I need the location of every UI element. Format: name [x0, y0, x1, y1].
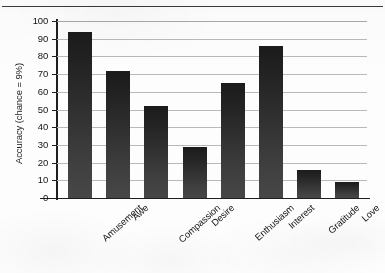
y-axis-tick-label: 80 [14, 50, 48, 61]
bar [106, 71, 130, 198]
gridline [57, 56, 367, 57]
x-axis-tick-label-text: Love [360, 202, 382, 224]
bar [144, 106, 168, 198]
y-axis-tick-label: 70 [14, 68, 48, 79]
y-axis-tick-label: 0 [14, 192, 48, 203]
gridline [57, 110, 367, 111]
bar [183, 147, 207, 198]
gridline [57, 92, 367, 93]
bar [259, 46, 283, 198]
x-axis-tick-label: Love [360, 202, 382, 224]
y-axis-tick-label: 100 [14, 15, 48, 26]
gridline [57, 127, 367, 128]
plot-area [57, 21, 367, 198]
gridline [57, 74, 367, 75]
gridline [57, 39, 367, 40]
y-axis-tick-label: 60 [14, 86, 48, 97]
bar [221, 83, 245, 198]
y-axis-tick [52, 198, 57, 199]
y-axis-tick-label: 30 [14, 139, 48, 150]
x-axis-tick-label: Gratitude [326, 202, 362, 236]
y-axis-tick-label: 10 [14, 174, 48, 185]
y-axis-tick-label: 40 [14, 121, 48, 132]
y-axis-tick-label: 20 [14, 157, 48, 168]
top-horizontal-rule [2, 6, 383, 7]
y-axis-tick-label: 50 [14, 104, 48, 115]
gridline [57, 163, 367, 164]
x-axis-tick-label-text: Gratitude [326, 202, 362, 236]
bar [335, 182, 359, 198]
y-axis-tick-label: 90 [14, 33, 48, 44]
bar [297, 170, 321, 198]
bar [68, 32, 92, 198]
chart-figure: Accuracy (chance = 9%) 01020304050607080… [0, 0, 385, 273]
gridline [57, 145, 367, 146]
gridline [57, 21, 367, 22]
